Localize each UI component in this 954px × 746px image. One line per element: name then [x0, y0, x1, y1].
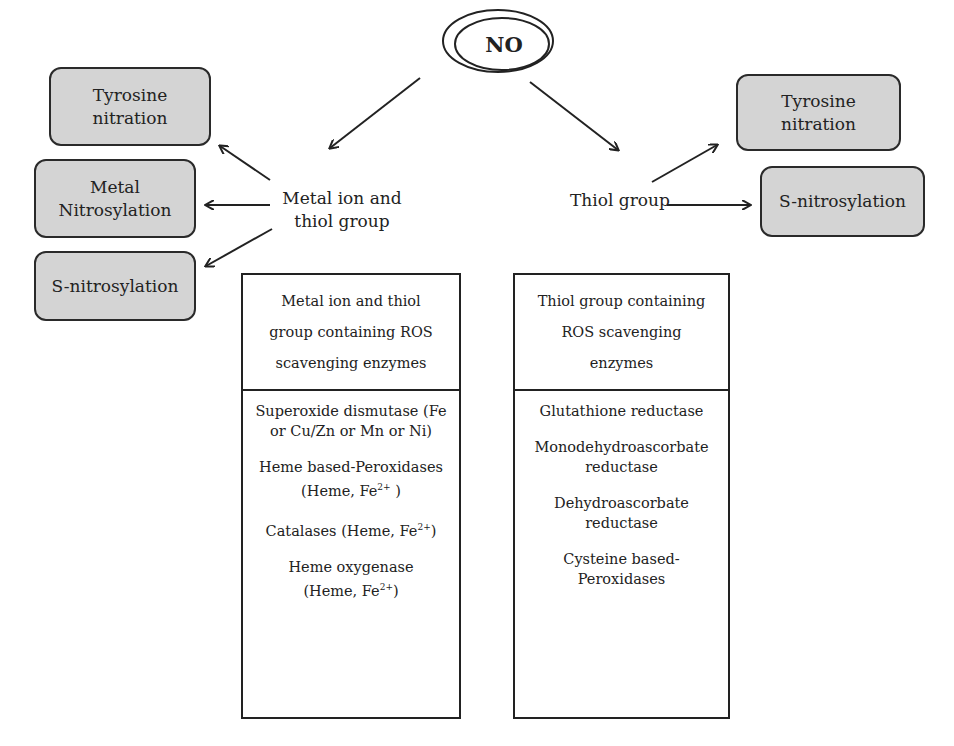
arrow-no-to-thiol	[530, 82, 618, 150]
left-table-header: Metal ion and thiol group containing ROS…	[243, 275, 459, 391]
right-tyrosine-nitration-box: Tyrosinenitration	[736, 74, 901, 151]
left-table-body: Superoxide dismutase (Fe or Cu/Zn or Mn …	[243, 391, 459, 600]
enzyme-item: Glutathione reductase	[515, 401, 728, 421]
no-node: NO	[443, 10, 553, 72]
enzyme-item: Heme based-Peroxidases (Heme, Fe2+ )	[243, 457, 459, 501]
left-metal-nitrosylation-box: MetalNitrosylation	[34, 159, 196, 238]
enzyme-item: Monodehydroascorbate reductase	[515, 437, 728, 477]
left-tyrosine-nitration-box: Tyrosinenitration	[49, 67, 211, 146]
arrow-no-to-metal-ion	[330, 78, 420, 148]
no-label: NO	[449, 13, 559, 75]
arrow-to-left-tyrosine	[220, 146, 270, 180]
right-branch-label: Thiol group	[570, 189, 670, 212]
arrow-to-right-tyrosine	[652, 145, 717, 182]
enzyme-item: Superoxide dismutase (Fe or Cu/Zn or Mn …	[243, 401, 459, 441]
right-table-body: Glutathione reductase Monodehydroascorba…	[515, 391, 728, 589]
enzyme-item: Cysteine based-Peroxidases	[515, 549, 728, 589]
enzyme-item: Catalases (Heme, Fe2+)	[243, 517, 459, 541]
enzyme-item: Dehydroascorbate reductase	[515, 493, 728, 533]
right-enzyme-table: Thiol group containing ROS scavenging en…	[513, 273, 730, 719]
left-branch-label: Metal ion and thiol group	[272, 187, 412, 233]
enzyme-item: Heme oxygenase (Heme, Fe2+)	[243, 557, 459, 601]
right-table-header: Thiol group containing ROS scavenging en…	[515, 275, 728, 391]
right-s-nitrosylation-box: S-nitrosylation	[760, 166, 925, 237]
left-enzyme-table: Metal ion and thiol group containing ROS…	[241, 273, 461, 719]
left-s-nitrosylation-box: S-nitrosylation	[34, 251, 196, 321]
arrow-to-left-s-nitrosylation	[206, 229, 272, 266]
